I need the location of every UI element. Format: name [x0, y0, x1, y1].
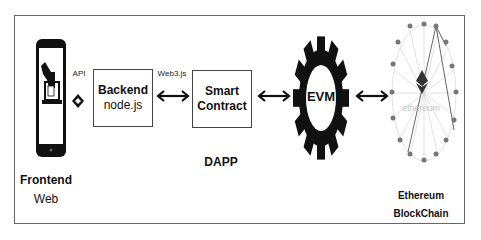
smartphone-voting-icon [35, 38, 67, 158]
backend-subtitle: node.js [104, 98, 143, 113]
blockchain-subtitle: BlockChain [393, 208, 448, 219]
smart-contract-box: Smart Contract [192, 70, 252, 128]
blockchain-title: Ethereum [398, 190, 444, 201]
contract-evm-arrow-icon [257, 90, 291, 102]
web3-label: Web3.js [158, 69, 187, 78]
evm-label: EVM [307, 89, 335, 104]
dapp-label: DAPP [204, 155, 237, 169]
ethereum-network-label: ethereum [402, 103, 440, 113]
web3-bidirectional-arrow-icon [156, 90, 190, 102]
backend-title: Backend [98, 83, 148, 98]
backend-box: Backend node.js [93, 69, 153, 127]
api-label: API [73, 69, 86, 78]
smart-contract-line1: Smart [205, 84, 239, 99]
smart-contract-line2: Contract [197, 99, 246, 114]
frontend-title: Frontend [20, 173, 72, 187]
api-bidirectional-arrow-icon [72, 94, 84, 108]
frontend-subtitle: Web [34, 192, 58, 206]
ethereum-network-icon [388, 20, 460, 166]
evm-blockchain-arrow-icon [355, 90, 389, 102]
